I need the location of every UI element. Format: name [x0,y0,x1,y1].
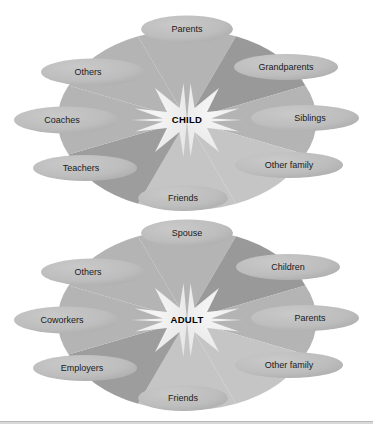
node-label: Employers [61,363,104,373]
node-teachers[interactable]: Teachers [33,155,137,181]
node-label: Other family [265,360,314,370]
diagram-adult: Spouse Children Parents Other family Fri [0,215,373,425]
node-label: Spouse [172,228,203,238]
node-label: Others [74,267,102,277]
node-coaches[interactable]: Coaches [14,107,118,134]
node-label: Coworkers [40,315,84,325]
node-coworkers[interactable]: Coworkers [14,307,118,334]
node-label: Children [271,262,305,272]
node-siblings[interactable]: Siblings [251,105,359,131]
node-label: Coaches [44,115,80,125]
node-label: Siblings [294,113,326,123]
diagram-child: Parents Grandparents Siblings Other fami… [0,8,373,218]
node-label: Other family [265,160,314,170]
node-label: Friends [168,393,199,403]
node-grandparents[interactable]: Grandparents [234,54,338,80]
node-parents[interactable]: Parents [141,16,233,43]
node-friends[interactable]: Friends [138,385,228,411]
node-label: Parents [171,24,203,34]
node-label: Teachers [63,163,100,173]
node-employers[interactable]: Employers [33,355,137,381]
bottom-divider [0,421,373,424]
node-other-family[interactable]: Other family [235,352,343,378]
center-label-child: CHILD [172,114,203,125]
node-others[interactable]: Others [41,59,145,86]
node-parents[interactable]: Parents [251,305,359,331]
node-label: Grandparents [258,62,314,72]
node-other-family[interactable]: Other family [235,152,343,178]
node-label: Others [74,67,102,77]
center-label-adult: ADULT [171,314,204,325]
node-label: Parents [294,313,326,323]
node-friends[interactable]: Friends [138,185,228,211]
node-label: Friends [168,193,199,203]
node-children[interactable]: Children [236,254,340,280]
node-others[interactable]: Others [41,259,145,286]
figure-page: Parents Grandparents Siblings Other fami… [0,0,373,434]
node-spouse[interactable]: Spouse [141,220,233,247]
